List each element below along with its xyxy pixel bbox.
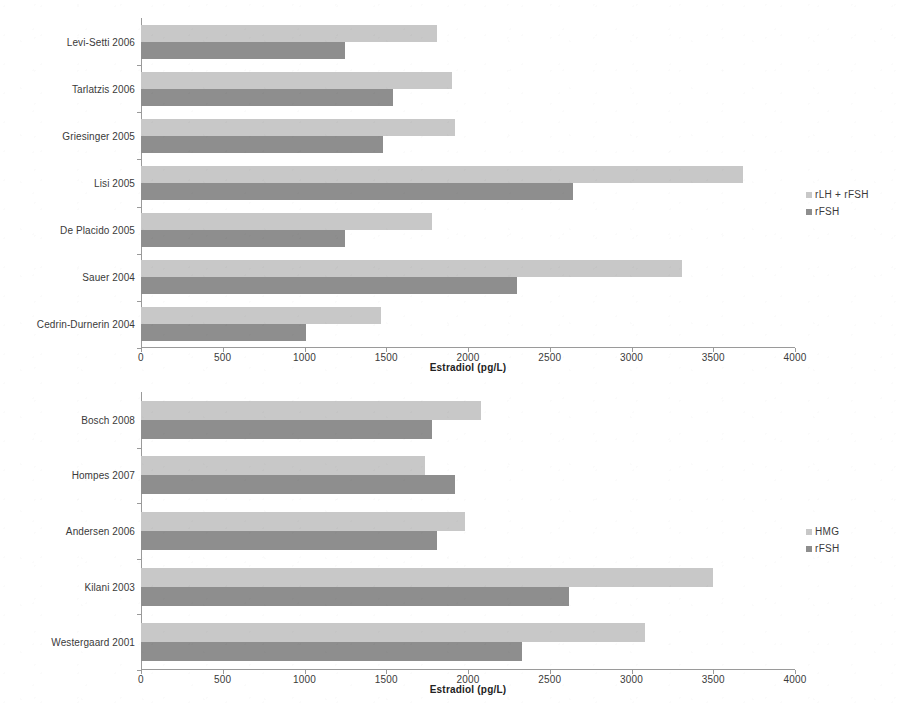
figure: Levi-Setti 2006Tarlatzis 2006Griesinger …: [0, 0, 919, 712]
x-tick-label: 3000: [620, 352, 643, 363]
chart-panel-bottom: Bosch 2008Hompes 2007Andersen 2006Kilani…: [0, 372, 919, 712]
category-label: Andersen 2006: [66, 526, 135, 537]
category-label: Levi-Setti 2006: [67, 36, 135, 47]
bar-rfsh: [141, 475, 455, 494]
bar-rfsh: [141, 531, 437, 550]
bar-rlh-rfsh: [141, 166, 743, 183]
legend-item[interactable]: rFSH: [806, 544, 840, 554]
y-tick-mark: [137, 448, 141, 449]
y-tick-mark: [137, 503, 141, 504]
category-label: Kilani 2003: [84, 581, 135, 592]
x-tick-label: 1500: [375, 674, 398, 685]
legend-label: rFSH: [815, 207, 840, 217]
bar-rfsh: [141, 324, 306, 341]
x-tick-label: 1000: [293, 352, 316, 363]
category-label: Lisi 2005: [94, 178, 135, 189]
y-tick-mark: [137, 670, 141, 671]
category-label: Tarlatzis 2006: [72, 83, 135, 94]
bar-rfsh: [141, 136, 383, 153]
bar-rlh-rfsh: [141, 72, 452, 89]
category-label: Westergaard 2001: [51, 637, 135, 648]
x-tick-label: 500: [214, 352, 231, 363]
category-label: Griesinger 2005: [62, 130, 135, 141]
y-tick-mark: [137, 207, 141, 208]
bar-rlh-rfsh: [141, 119, 455, 136]
x-tick-label: 4000: [783, 674, 806, 685]
legend-bottom: HMGrFSH: [806, 527, 840, 561]
y-tick-mark: [137, 614, 141, 615]
plot-area-bottom: Bosch 2008Hompes 2007Andersen 2006Kilani…: [141, 392, 795, 670]
y-tick-mark: [137, 65, 141, 66]
x-tick-label: 3500: [702, 674, 725, 685]
y-tick-mark: [137, 348, 141, 349]
category-label: Bosch 2008: [81, 414, 135, 425]
x-tick-label: 4000: [783, 352, 806, 363]
bar-rfsh: [141, 230, 345, 247]
x-tick-label: 3000: [620, 674, 643, 685]
x-tick-label: 1500: [375, 352, 398, 363]
category-label: Cedrin-Durnerin 2004: [37, 319, 135, 330]
legend-swatch-icon: [806, 209, 812, 215]
bar-rfsh: [141, 42, 345, 59]
y-tick-mark: [137, 254, 141, 255]
y-tick-mark: [137, 301, 141, 302]
legend-item[interactable]: HMG: [806, 527, 840, 537]
legend-item[interactable]: rFSH: [806, 207, 869, 217]
x-tick-label: 0: [138, 674, 144, 685]
bar-hmg: [141, 401, 481, 420]
legend-label: HMG: [815, 527, 839, 537]
bar-rlh-rfsh: [141, 307, 381, 324]
category-label: Sauer 2004: [82, 272, 135, 283]
chart-panel-top: Levi-Setti 2006Tarlatzis 2006Griesinger …: [0, 0, 919, 380]
bar-rfsh: [141, 587, 569, 606]
x-tick-label: 500: [214, 674, 231, 685]
bar-hmg: [141, 456, 425, 475]
bar-rfsh: [141, 277, 517, 294]
bar-hmg: [141, 512, 465, 531]
legend-swatch-icon: [806, 546, 812, 552]
legend-swatch-icon: [806, 192, 812, 198]
category-label: Hompes 2007: [72, 470, 135, 481]
bar-rlh-rfsh: [141, 213, 432, 230]
bar-hmg: [141, 623, 645, 642]
x-tick-label: 2500: [538, 352, 561, 363]
bar-hmg: [141, 568, 713, 587]
bar-rfsh: [141, 183, 573, 200]
bar-rfsh: [141, 420, 432, 439]
legend-item[interactable]: rLH + rFSH: [806, 190, 869, 200]
legend-label: rLH + rFSH: [815, 190, 869, 200]
x-tick-label: 1000: [293, 674, 316, 685]
plot-area-top: Levi-Setti 2006Tarlatzis 2006Griesinger …: [141, 18, 795, 348]
bar-rlh-rfsh: [141, 260, 682, 277]
x-tick-label: 0: [138, 352, 144, 363]
x-axis-title-bottom: Estradiol (pg/L): [430, 684, 507, 695]
x-tick-label: 3500: [702, 352, 725, 363]
y-tick-mark: [137, 559, 141, 560]
y-tick-mark: [137, 112, 141, 113]
bar-rlh-rfsh: [141, 25, 437, 42]
bar-rfsh: [141, 642, 522, 661]
legend-top: rLH + rFSHrFSH: [806, 190, 869, 224]
legend-label: rFSH: [815, 544, 840, 554]
y-tick-mark: [137, 159, 141, 160]
x-tick-label: 2500: [538, 674, 561, 685]
legend-swatch-icon: [806, 529, 812, 535]
category-label: De Placido 2005: [60, 225, 135, 236]
bar-rfsh: [141, 89, 393, 106]
